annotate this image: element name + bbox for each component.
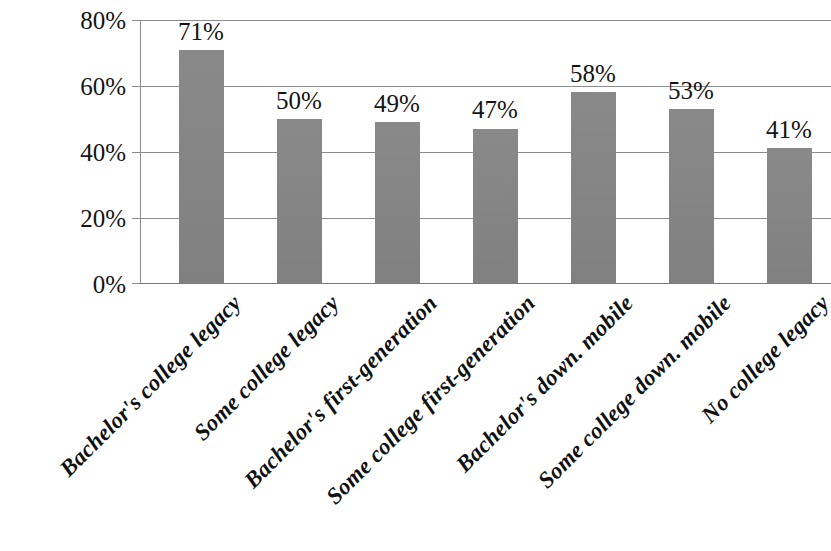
x-axis-label-2: Bachelor's first-generation <box>240 291 441 492</box>
bar-2 <box>375 122 420 283</box>
x-axis-label-3: Some college first-generation <box>322 291 539 508</box>
bar-5 <box>669 109 714 283</box>
y-axis-label-20: 20% <box>80 206 126 231</box>
data-label-0: 71% <box>141 19 261 44</box>
bar-chart: 80% 60% 40% 20% 0% 71% 50% 49% 47% 58% 5… <box>0 0 831 551</box>
bar-3 <box>473 129 518 284</box>
bar-4 <box>571 92 616 283</box>
x-axis-label-4: Bachelor's down. mobile <box>452 291 637 476</box>
y-axis-tick-20 <box>132 218 140 219</box>
x-axis-label-5: Some college down. mobile <box>534 291 735 492</box>
plot-area <box>140 20 831 283</box>
y-axis-tick-40 <box>132 152 140 153</box>
bar-6 <box>767 148 812 283</box>
data-label-3: 47% <box>435 97 555 122</box>
y-axis-label-60: 60% <box>80 74 126 99</box>
y-axis-label-80: 80% <box>80 8 126 33</box>
bar-0 <box>179 50 224 283</box>
y-axis-label-40: 40% <box>80 140 126 165</box>
y-axis-tick-80 <box>132 20 140 21</box>
bar-1 <box>277 119 322 283</box>
data-label-6: 41% <box>729 117 831 142</box>
x-axis-labels: Bachelor's college legacy Some college l… <box>0 283 831 551</box>
x-axis-label-0: Bachelor's college legacy <box>56 291 246 481</box>
data-label-5: 53% <box>631 78 751 103</box>
y-axis-tick-60 <box>132 86 140 87</box>
